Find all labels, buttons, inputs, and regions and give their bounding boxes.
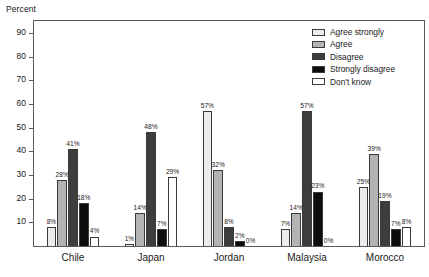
- bar-value-label: 0%: [246, 238, 256, 245]
- y-axis-tick-mark: [29, 57, 33, 58]
- bar-value-label: 7%: [391, 221, 401, 228]
- bar-rect: [281, 229, 291, 246]
- y-axis-tick-mark: [29, 128, 33, 129]
- bar-rect: [157, 229, 167, 246]
- legend-item-dont-know: Don't know: [312, 76, 422, 88]
- bar-malaysia-agree-strongly: 7%: [281, 21, 291, 246]
- bar-japan-agree: 14%: [135, 21, 145, 246]
- x-axis-label-japan: Japan: [112, 252, 190, 263]
- bar-chile-dont-know: 4%: [90, 21, 100, 246]
- legend-label: Don't know: [330, 78, 371, 86]
- bar-value-label: 39%: [368, 146, 381, 153]
- x-axis-label-chile: Chile: [34, 252, 112, 263]
- bar-rect: [391, 229, 401, 246]
- bar-value-label: 57%: [201, 103, 214, 110]
- legend-swatch-dont-know: [312, 78, 325, 85]
- bar-rect: [380, 201, 390, 246]
- y-axis-tick-mark: [29, 175, 33, 176]
- bar-group-chile: 8%28%41%18%4%: [47, 21, 100, 246]
- bar-japan-strongly-disagree: 7%: [157, 21, 167, 246]
- y-axis-tick-label: 90: [17, 27, 26, 37]
- legend-swatch-agree-strongly: [312, 29, 325, 36]
- y-axis-tick-label: 80: [17, 51, 26, 61]
- bar-chile-agree: 28%: [57, 21, 67, 246]
- bar-value-label: 8%: [224, 219, 234, 226]
- bar-rect: [203, 111, 213, 246]
- bar-group-japan: 1%14%48%7%29%: [125, 21, 178, 246]
- bar-rect: [125, 244, 135, 246]
- y-axis-tick-mark: [29, 33, 33, 34]
- y-axis-tick-label: 30: [17, 169, 26, 179]
- bar-value-label: 32%: [212, 162, 225, 169]
- bar-rect: [402, 227, 412, 246]
- bar-jordan-strongly-disagree: 2%: [235, 21, 245, 246]
- bar-chart: Percent 102030405060708090 8%28%41%18%4%…: [0, 0, 429, 277]
- x-axis-label-malaysia: Malaysia: [268, 252, 346, 263]
- bar-malaysia-agree: 14%: [291, 21, 301, 246]
- bar-rect: [168, 177, 178, 246]
- y-axis-tick-label: 20: [17, 193, 26, 203]
- y-axis-tick-mark: [29, 104, 33, 105]
- x-axis-label-morocco: Morocco: [346, 252, 424, 263]
- bar-jordan-disagree: 8%: [224, 21, 234, 246]
- y-axis-tick-mark: [29, 199, 33, 200]
- y-axis-tick-mark: [29, 80, 33, 81]
- bar-jordan-agree: 32%: [213, 21, 223, 246]
- bar-value-label: 18%: [77, 195, 90, 202]
- legend-swatch-disagree: [312, 53, 325, 60]
- bar-rect: [224, 227, 234, 246]
- y-axis-title: Percent: [6, 4, 36, 14]
- chart-legend: Agree stronglyAgreeDisagreeStrongly disa…: [312, 26, 422, 88]
- bar-rect: [47, 227, 57, 246]
- legend-label: Agree: [330, 40, 352, 48]
- y-axis-tick-label: 40: [17, 145, 26, 155]
- bar-value-label: 1%: [125, 236, 135, 243]
- bar-value-label: 41%: [66, 141, 79, 148]
- bar-value-label: 19%: [378, 193, 391, 200]
- bar-rect: [369, 154, 379, 246]
- bar-value-label: 14%: [290, 205, 303, 212]
- legend-swatch-agree: [312, 41, 325, 48]
- bar-value-label: 4%: [90, 228, 100, 235]
- bar-malaysia-disagree: 57%: [302, 21, 312, 246]
- bar-cluster: 8%28%41%18%4%: [47, 21, 100, 246]
- bar-rect: [79, 203, 89, 246]
- bar-value-label: 8%: [47, 219, 57, 226]
- bar-japan-dont-know: 29%: [168, 21, 178, 246]
- bar-chile-strongly-disagree: 18%: [79, 21, 89, 246]
- bar-japan-disagree: 48%: [146, 21, 156, 246]
- bar-rect: [291, 213, 301, 246]
- bar-cluster: 57%32%8%2%0%: [203, 21, 256, 246]
- bar-value-label: 29%: [166, 169, 179, 176]
- y-axis-tick-label: 60: [17, 98, 26, 108]
- bar-rect: [359, 187, 369, 246]
- bar-jordan-agree-strongly: 57%: [203, 21, 213, 246]
- bar-japan-agree-strongly: 1%: [125, 21, 135, 246]
- x-axis-label-jordan: Jordan: [190, 252, 268, 263]
- bar-rect: [57, 180, 67, 246]
- bar-value-label: 2%: [235, 233, 245, 240]
- bar-value-label: 28%: [56, 172, 69, 179]
- y-axis-tick-mark: [29, 222, 33, 223]
- bar-value-label: 48%: [144, 124, 157, 131]
- legend-item-disagree: Disagree: [312, 51, 422, 63]
- bar-rect: [302, 111, 312, 246]
- legend-item-strongly-disagree: Strongly disagree: [312, 63, 422, 75]
- bar-chile-disagree: 41%: [68, 21, 78, 246]
- bar-rect: [135, 213, 145, 246]
- bar-jordan-dont-know: 0%: [246, 21, 256, 246]
- bar-value-label: 8%: [402, 219, 412, 226]
- y-axis-tick-label: 70: [17, 74, 26, 84]
- legend-label: Strongly disagree: [330, 65, 395, 73]
- legend-label: Disagree: [330, 53, 364, 61]
- bar-value-label: 57%: [300, 103, 313, 110]
- y-axis-tick-mark: [29, 151, 33, 152]
- bar-group-jordan: 57%32%8%2%0%: [203, 21, 256, 246]
- legend-swatch-strongly-disagree: [312, 66, 325, 73]
- bar-rect: [213, 170, 223, 246]
- bar-value-label: 14%: [134, 205, 147, 212]
- bar-rect: [313, 192, 323, 246]
- y-axis-tick-label: 50: [17, 122, 26, 132]
- legend-item-agree-strongly: Agree strongly: [312, 26, 422, 38]
- bar-rect: [146, 132, 156, 246]
